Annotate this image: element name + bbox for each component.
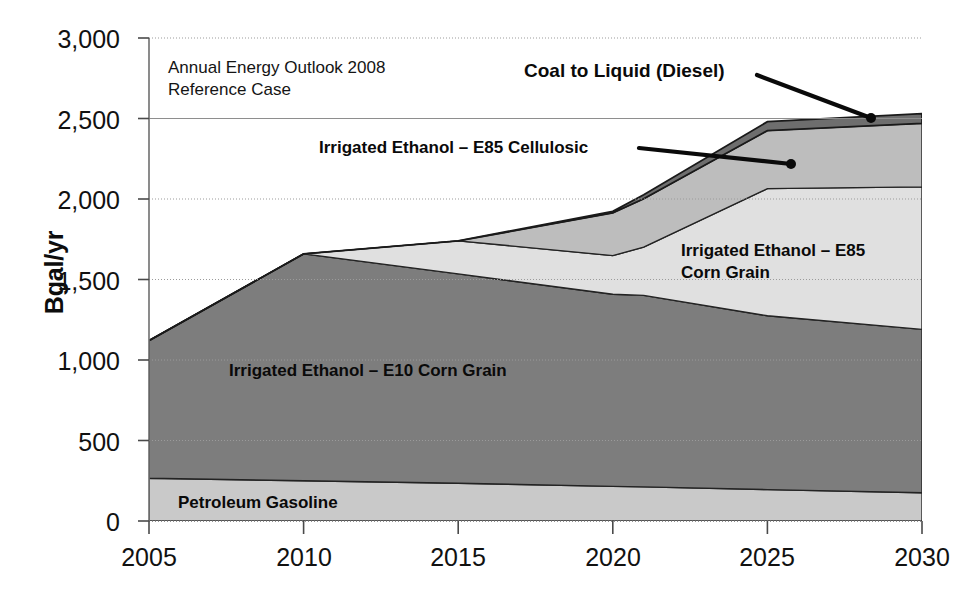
- annotation-title: Annual Energy Outlook 2008: [168, 57, 385, 79]
- callout-dot-coal-to-liquid: [866, 113, 876, 123]
- series-label-e10-corn-grain: Irrigated Ethanol – E10 Corn Grain: [229, 360, 507, 382]
- series-label-e85-corn-grain: Irrigated Ethanol – E85 Corn Grain: [681, 240, 865, 284]
- series-label-petroleum-gasoline: Petroleum Gasoline: [178, 492, 338, 514]
- plot-area: [0, 0, 966, 601]
- callout-dot-e85-cellulosic: [786, 159, 796, 169]
- callout-label-coal-to-liquid: Coal to Liquid (Diesel): [524, 60, 725, 82]
- callout-label-e85-cellulosic: Irrigated Ethanol – E85 Cellulosic: [319, 137, 588, 159]
- stacked-area-chart: Bgal/yr 3,000 2,500 2,000 1,500 1,000 50…: [0, 0, 966, 601]
- annotation-subtitle: Reference Case: [168, 79, 291, 101]
